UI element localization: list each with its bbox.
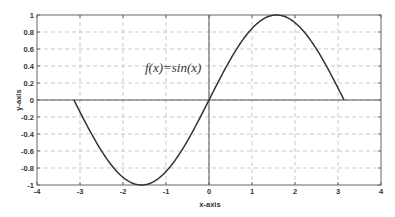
x-tick-label: 2	[293, 187, 297, 196]
x-tick-label: 3	[336, 187, 340, 196]
y-tick-label: -0.6	[21, 147, 34, 156]
y-tick-label: 0.8	[24, 28, 34, 37]
y-axis-label: y-axis	[14, 89, 23, 110]
y-tick-label: -0.4	[21, 130, 35, 139]
y-tick-label: 0.4	[24, 62, 35, 71]
x-tick-label: -2	[120, 187, 127, 196]
x-axis-label: x-axis	[199, 200, 220, 209]
sine-chart: -4-3-2-101234 -1-0.8-0.6-0.4-0.200.20.40…	[0, 0, 395, 217]
x-tick-label: 0	[207, 187, 211, 196]
y-tick-label: 0.2	[24, 79, 34, 88]
y-tick-label: 0	[30, 96, 34, 105]
x-tick-label: 4	[379, 187, 384, 196]
x-tick-labels: -4-3-2-101234	[34, 187, 384, 196]
y-tick-label: -1	[27, 181, 34, 190]
y-tick-label: 1	[30, 11, 34, 20]
x-tick-label: -1	[163, 187, 170, 196]
x-tick-label: -3	[77, 187, 84, 196]
y-tick-label: -0.8	[21, 164, 34, 173]
y-tick-labels: -1-0.8-0.6-0.4-0.200.20.40.60.81	[21, 11, 35, 190]
y-tick-label: 0.6	[24, 45, 34, 54]
x-tick-label: 1	[250, 187, 254, 196]
y-tick-label: -0.2	[21, 113, 34, 122]
function-annotation: f(x)=sin(x)	[145, 60, 201, 75]
x-tick-label: -4	[34, 187, 41, 196]
